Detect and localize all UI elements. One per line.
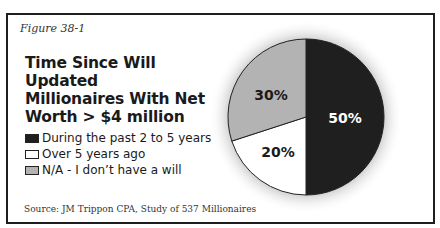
title-line-2: Millionaires With Net	[25, 90, 230, 108]
legend-label: During the past 2 to 5 years	[42, 131, 211, 145]
legend-item-recent: During the past 2 to 5 years	[25, 130, 211, 146]
slice-label-50: 50%	[328, 110, 362, 126]
legend: During the past 2 to 5 years Over 5 year…	[25, 130, 211, 178]
chart-title: Time Since Will Updated Millionaires Wit…	[25, 54, 230, 126]
legend-item-over-5: Over 5 years ago	[25, 146, 211, 162]
legend-item-no-will: N/A - I don’t have a will	[25, 162, 211, 178]
pie-chart: 50% 20% 30%	[208, 19, 404, 215]
legend-swatch-white	[25, 150, 39, 159]
title-line-1: Time Since Will Updated	[25, 54, 230, 90]
legend-swatch-dark	[25, 134, 39, 143]
legend-label: Over 5 years ago	[42, 147, 145, 161]
title-line-3: Worth > $4 million	[25, 108, 230, 126]
legend-label: N/A - I don’t have a will	[42, 163, 182, 177]
figure-label: Figure 38-1	[20, 22, 85, 35]
legend-swatch-gray	[25, 166, 39, 175]
slice-label-30: 30%	[254, 87, 288, 103]
slice-label-20: 20%	[261, 144, 295, 160]
